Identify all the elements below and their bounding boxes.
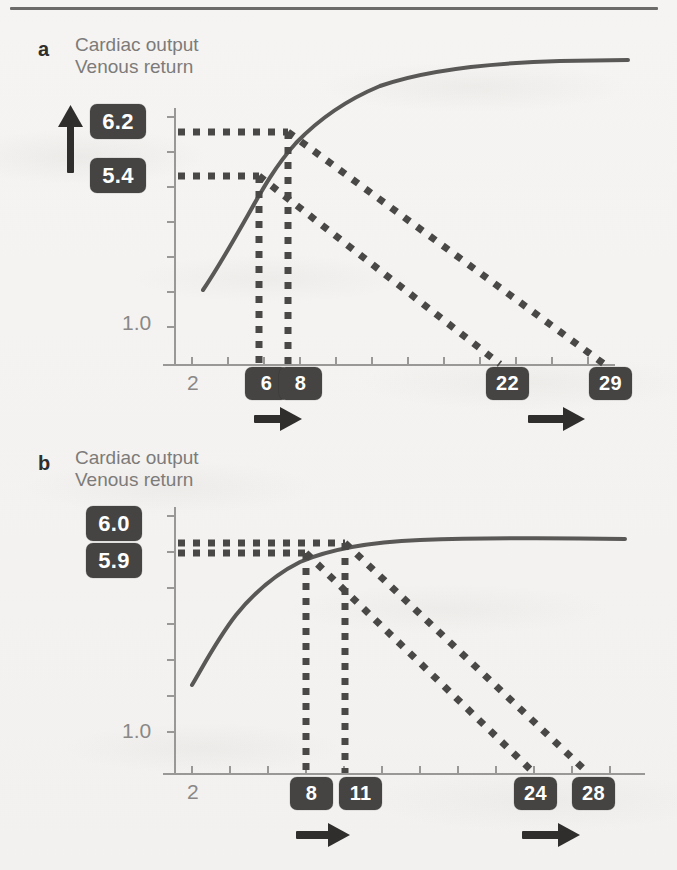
panel-a-x-tick-label: 2	[187, 371, 199, 395]
panel-a-plot	[0, 0, 677, 435]
panel-a-svg	[0, 0, 677, 435]
panel-b-x-badge-11[interactable]: 11	[339, 777, 382, 810]
panel-b-x-badge-8[interactable]: 8	[290, 777, 333, 810]
panel-a: a Cardiac output Venous return	[0, 0, 677, 435]
panel-b-y-badge-6-0[interactable]: 6.0	[86, 506, 142, 541]
panel-a-right-arrow-icon-2	[528, 407, 585, 431]
panel-a-y-ticks	[167, 117, 175, 327]
panel-b: b Cardiac output Venous return	[0, 435, 677, 870]
panel-a-x-badge-22[interactable]: 22	[486, 367, 529, 400]
panel-b-x-tick-label: 2	[187, 780, 199, 804]
panel-a-y-tick-label: 1.0	[122, 311, 151, 335]
panel-b-x-ticks	[192, 766, 610, 774]
panel-b-venous-return-shifted	[345, 543, 588, 773]
panel-b-y-ticks	[167, 516, 175, 732]
panel-a-x-badge-8[interactable]: 8	[279, 367, 322, 400]
panel-a-y-badge-5-4[interactable]: 5.4	[90, 158, 146, 193]
panel-b-x-badge-24[interactable]: 24	[514, 777, 557, 810]
panel-a-cardiac-output-curve	[203, 60, 628, 290]
panel-b-y-tick-label: 1.0	[122, 719, 151, 743]
panel-b-venous-return-baseline	[306, 553, 534, 773]
panel-b-x-badge-28[interactable]: 28	[572, 777, 615, 810]
panel-b-cardiac-output-curve	[192, 538, 625, 685]
panel-b-right-arrow-icon-2	[522, 823, 580, 847]
panel-a-up-arrow-icon	[58, 105, 83, 173]
panel-b-y-badge-5-9[interactable]: 5.9	[86, 543, 142, 578]
panel-a-venous-return-shifted	[288, 132, 604, 364]
panel-b-right-arrow-icon-1	[296, 823, 350, 847]
panel-a-right-arrow-icon-1	[254, 407, 302, 431]
panel-a-venous-return-baseline	[259, 176, 500, 364]
panel-a-y-badge-6-2[interactable]: 6.2	[90, 104, 146, 139]
panel-a-x-ticks	[192, 357, 588, 365]
panel-a-x-badge-29[interactable]: 29	[589, 367, 632, 400]
